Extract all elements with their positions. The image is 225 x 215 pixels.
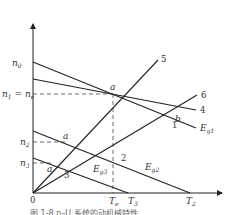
label-curve-2: 2 — [121, 153, 126, 163]
label-n3: n3 — [20, 158, 30, 169]
figure-caption: 图 1-8 n–U 系统的动机械特性 — [30, 208, 138, 215]
point-b: b — [175, 114, 181, 124]
curve-2-eg2 — [33, 131, 190, 193]
label-curve-6: 6 — [201, 90, 206, 100]
point-a-main: a — [110, 82, 115, 92]
label-t2: T2 — [186, 196, 196, 207]
label-n2: n2 — [20, 137, 30, 148]
point-a-n2: a — [63, 131, 68, 141]
label-eg1: Eg1 — [199, 123, 214, 135]
origin-label: 0 — [30, 195, 35, 205]
mechanical-characteristic-diagram: n0 n1 = ne n2 n3 0 Te T3 T2 5 6 4 1 Eg1 … — [0, 0, 225, 215]
label-n1-ne: n1 = ne — [2, 89, 35, 100]
label-eg2: Eg2 — [144, 162, 159, 174]
label-curve-5: 5 — [161, 54, 166, 64]
label-t3: T3 — [128, 196, 138, 207]
label-curve-4: 4 — [200, 105, 205, 115]
curve-6 — [33, 95, 197, 193]
label-eg3: Eg3 — [92, 164, 107, 176]
label-curve-3: 3 — [64, 170, 69, 180]
label-n0: n0 — [12, 58, 22, 69]
point-a-prime: a′ — [47, 164, 54, 174]
label-te: Te — [109, 196, 119, 207]
